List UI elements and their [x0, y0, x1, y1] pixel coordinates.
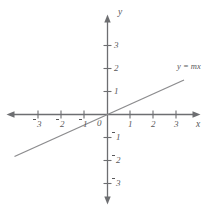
y-tick-label-neg1-value: 1: [116, 132, 121, 142]
x-tick-label-neg2: 2: [56, 120, 65, 129]
x-axis-label: x: [196, 120, 200, 130]
y-tick-label-neg2-value: 2: [116, 155, 121, 165]
x-tick-label-neg3-value: 3: [37, 119, 42, 129]
y-axis: [104, 15, 112, 205]
x-tick-label-1: 1: [128, 120, 133, 129]
y-axis-label: y: [118, 8, 122, 18]
line-equation-label: y = mx: [177, 62, 201, 71]
y-tick-label-neg1: 1: [112, 133, 121, 142]
origin-label: 0: [97, 119, 102, 128]
x-tick-label-3: 3: [174, 120, 179, 129]
x-axis-arrow-left-icon: [7, 111, 15, 117]
y-tick-label-3: 3: [114, 41, 119, 50]
x-tick-label-neg2-value: 2: [60, 119, 65, 129]
y-axis-arrow-up-icon: [104, 15, 110, 23]
y-tick-label-1: 1: [114, 87, 119, 96]
y-tick-label-neg3-value: 3: [116, 178, 121, 188]
x-tick-label-2: 2: [151, 120, 156, 129]
y-tick-label-neg3: 3: [112, 179, 121, 188]
x-axis: [7, 111, 201, 119]
x-tick-label-neg3: 3: [33, 120, 42, 129]
coordinate-plane-figure: y x 0 3 2 1 1 2 3 3 2 1 1 2 3 y = mx: [0, 0, 215, 210]
y-axis-arrow-down-icon: [104, 197, 110, 205]
x-axis-arrow-right-icon: [193, 111, 201, 117]
y-tick-label-neg2: 2: [112, 156, 121, 165]
y-tick-label-2: 2: [114, 64, 119, 73]
plot-canvas: [0, 0, 215, 210]
x-tick-label-neg1-value: 1: [83, 119, 88, 129]
x-tick-label-neg1: 1: [79, 120, 88, 129]
